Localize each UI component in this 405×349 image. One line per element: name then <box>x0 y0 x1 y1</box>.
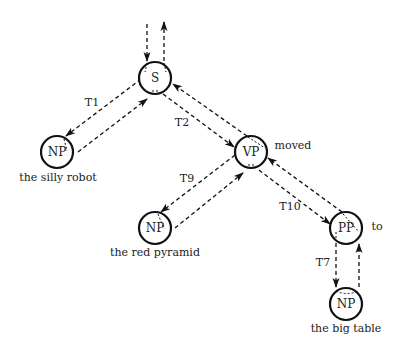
node-vp: VP moved <box>235 136 311 168</box>
transition-label-t1: T1 <box>85 96 99 109</box>
svg-text:NP: NP <box>48 145 67 159</box>
edge-s-np1-down <box>66 79 141 136</box>
node-pp: PP to <box>330 212 383 244</box>
svg-text:NP: NP <box>337 297 356 311</box>
node-np-big-table: NP the big table <box>311 288 382 335</box>
word-moved: moved <box>275 139 312 152</box>
node-np-silly-robot: NP the silly robot <box>19 136 97 184</box>
svg-text:PP: PP <box>338 221 354 235</box>
transition-label-t10: T10 <box>279 200 300 213</box>
transition-label-t7: T7 <box>316 256 330 269</box>
transition-label-t2: T2 <box>175 116 189 129</box>
word-the-red-pyramid: the red pyramid <box>110 246 200 259</box>
parse-tree-diagram: S NP the silly robot VP moved NP the red… <box>0 0 405 349</box>
word-to: to <box>371 220 382 233</box>
word-the-big-table: the big table <box>311 322 382 335</box>
word-the-silly-robot: the silly robot <box>19 171 97 184</box>
node-s: S <box>139 62 171 94</box>
edge-vp-np2-down <box>161 155 235 212</box>
svg-text:S: S <box>151 71 159 85</box>
svg-text:VP: VP <box>242 145 260 159</box>
transition-label-t9: T9 <box>180 172 194 185</box>
svg-text:NP: NP <box>146 221 165 235</box>
